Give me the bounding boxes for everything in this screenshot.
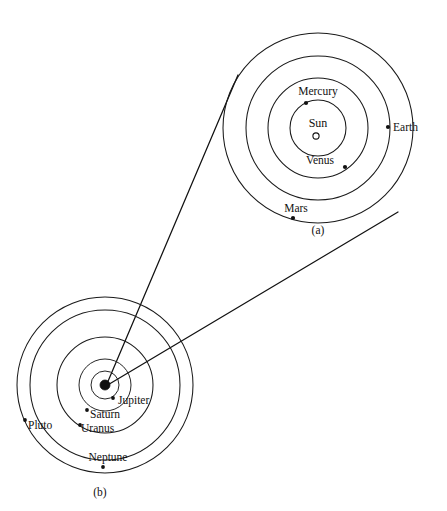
panel-b-group: Jupiter Saturn Uranus Neptune Pluto (b) — [17, 297, 193, 499]
caption-panel-b: (b) — [93, 486, 107, 499]
figure-canvas: Sun Mercury Venus Earth Mars (a) Jupiter… — [0, 0, 447, 511]
caption-panel-a: (a) — [312, 224, 325, 237]
magnifier-line-upper — [106, 75, 238, 386]
planet-dot-pluto — [23, 418, 27, 422]
planet-dot-saturn — [85, 408, 89, 412]
planet-dot-venus — [343, 165, 347, 169]
label-neptune: Neptune — [89, 451, 128, 464]
planet-dot-earth — [386, 125, 390, 129]
panel-a-group: Sun Mercury Venus Earth Mars (a) — [223, 33, 418, 237]
label-pluto: Pluto — [28, 419, 53, 431]
connector-group — [106, 75, 398, 386]
planet-dot-neptune — [101, 465, 105, 469]
label-earth: Earth — [393, 121, 418, 133]
label-sun: Sun — [309, 116, 328, 130]
label-venus: Venus — [306, 154, 335, 166]
planet-dot-jupiter — [111, 396, 115, 400]
magnifier-line-lower — [106, 212, 398, 386]
label-jupiter: Jupiter — [118, 394, 149, 407]
label-mercury: Mercury — [298, 85, 338, 98]
inner-system-marker — [100, 380, 110, 390]
label-saturn: Saturn — [90, 408, 120, 420]
label-mars: Mars — [284, 202, 308, 214]
sun-marker — [313, 133, 319, 139]
solar-system-figure: Sun Mercury Venus Earth Mars (a) Jupiter… — [0, 0, 447, 511]
planet-dot-mercury — [304, 101, 308, 105]
label-uranus: Uranus — [81, 422, 115, 434]
planet-dot-mars — [291, 216, 295, 220]
